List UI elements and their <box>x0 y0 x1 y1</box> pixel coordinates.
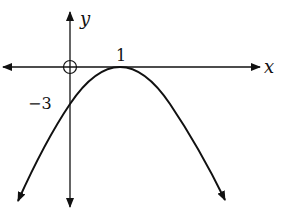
parabola-graph: y x 1 −3 <box>0 0 285 209</box>
parabola-curve <box>18 67 120 201</box>
y-axis-label: y <box>79 8 91 29</box>
y-intercept-label: −3 <box>28 94 52 113</box>
parabola-curve-right <box>120 67 225 200</box>
x-axis-label: x <box>264 56 274 77</box>
vertex-tick-label: 1 <box>116 46 126 65</box>
